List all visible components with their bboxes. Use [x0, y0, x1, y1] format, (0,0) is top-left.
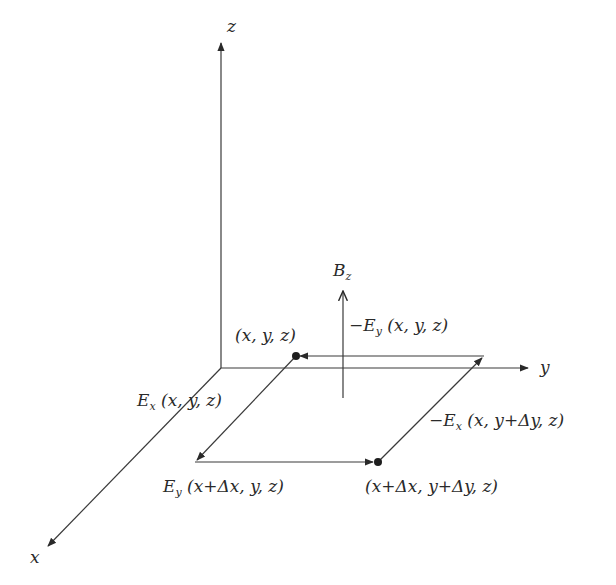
corner-label-far: (x+Δx, y+Δy, z) — [365, 478, 498, 495]
diagram-canvas — [0, 0, 616, 585]
edge-top-symbol: E — [363, 315, 375, 335]
edge-left-symbol: E — [137, 390, 149, 410]
edge-right-symbol: E — [443, 410, 455, 430]
edge-top-args: (x, y, z) — [382, 315, 448, 335]
y-axis-label: y — [540, 359, 550, 376]
edge-right-subscript: x — [456, 420, 462, 433]
edge-bottom-subscript: y — [175, 486, 181, 499]
corner-point-origin — [292, 352, 300, 360]
edge-bottom-args: (x+Δx, y, z) — [182, 476, 284, 496]
edge-right-args: (x, y+Δy, z) — [462, 410, 564, 430]
edge-left-subscript: x — [149, 400, 155, 413]
edge-label-bottom: Ey (x+Δx, y, z) — [163, 478, 284, 495]
corner-point-far — [374, 458, 382, 466]
bz-subscript: z — [346, 270, 352, 283]
z-axis-label: z — [227, 18, 236, 35]
edge-bottom-symbol: E — [163, 476, 175, 496]
edge-top-sign: − — [349, 315, 363, 335]
edge-label-right: −Ex (x, y+Δy, z) — [429, 412, 564, 429]
edge-left-args: (x, y, z) — [156, 390, 222, 410]
x-axis-label: x — [30, 549, 40, 566]
bz-symbol: B — [333, 260, 346, 280]
corner-label-origin: (x, y, z) — [235, 327, 296, 344]
edge-label-top: −Ey (x, y, z) — [349, 317, 448, 334]
edge-top-subscript: y — [376, 325, 382, 338]
edge-label-left: Ex (x, y, z) — [137, 392, 222, 409]
bz-label: Bz — [333, 262, 351, 279]
edge-right-sign: − — [429, 410, 443, 430]
